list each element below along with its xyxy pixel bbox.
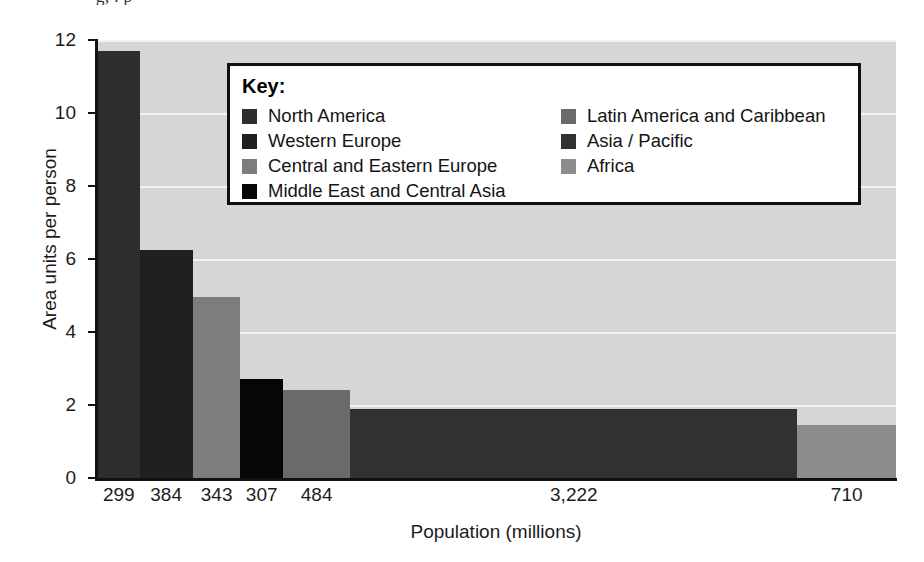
y-axis-tick-label: 4 xyxy=(14,322,76,341)
y-axis-label: Area units per person xyxy=(39,39,61,439)
y-axis-tick-mark xyxy=(88,39,97,41)
legend-item: Middle East and Central Asia xyxy=(242,179,561,204)
legend-swatch-icon xyxy=(242,184,257,199)
legend-swatch-icon xyxy=(242,134,257,149)
legend-columns: North AmericaWestern EuropeCentral and E… xyxy=(242,104,858,204)
legend-item-label: North America xyxy=(268,107,385,126)
legend-item-label: Latin America and Caribbean xyxy=(587,107,826,126)
x-axis-tick-label: 3,222 xyxy=(350,484,797,506)
legend-item: Central and Eastern Europe xyxy=(242,154,561,179)
x-axis-tick-label: 384 xyxy=(140,484,193,506)
legend-item: Western Europe xyxy=(242,129,561,154)
y-axis-tick-mark xyxy=(88,331,97,333)
x-axis-tick-label: 299 xyxy=(98,484,140,506)
bar xyxy=(283,390,350,478)
bar xyxy=(797,425,896,478)
y-axis-tick-label: 8 xyxy=(14,176,76,195)
y-axis-tick-label: 6 xyxy=(14,249,76,268)
x-axis-tick-label: 307 xyxy=(240,484,283,506)
y-axis-tick-mark xyxy=(88,258,97,260)
bar xyxy=(240,379,283,478)
legend-item: North America xyxy=(242,104,561,129)
legend-box: Key: North AmericaWestern EuropeCentral … xyxy=(227,63,861,205)
y-axis-tick-mark xyxy=(88,112,97,114)
x-axis-tick-label: 343 xyxy=(193,484,241,506)
y-axis-tick-label: 0 xyxy=(14,468,76,487)
chart-figure: g, . p Area units per person 024681012 2… xyxy=(0,0,924,562)
y-axis-tick-mark xyxy=(88,404,97,406)
legend-item: Asia / Pacific xyxy=(561,129,858,154)
legend-swatch-icon xyxy=(561,159,576,174)
legend-item-label: Middle East and Central Asia xyxy=(268,182,506,201)
x-axis-label: Population (millions) xyxy=(96,521,896,543)
legend-item-label: Central and Eastern Europe xyxy=(268,157,497,176)
gridline xyxy=(98,259,896,261)
legend-column-left: North AmericaWestern EuropeCentral and E… xyxy=(242,104,561,204)
clipped-title: g, . p xyxy=(96,0,796,5)
legend-item: Latin America and Caribbean xyxy=(561,104,858,129)
legend-column-right: Latin America and CaribbeanAsia / Pacifi… xyxy=(561,104,858,204)
legend-swatch-icon xyxy=(242,159,257,174)
y-axis-tick-mark xyxy=(88,185,97,187)
x-axis-line xyxy=(95,478,897,481)
bar xyxy=(98,51,140,478)
legend-item-label: Asia / Pacific xyxy=(587,132,693,151)
legend-item-label: Western Europe xyxy=(268,132,401,151)
legend-title: Key: xyxy=(242,75,858,97)
y-axis-tick-mark xyxy=(88,477,97,479)
legend-swatch-icon xyxy=(561,109,576,124)
legend-swatch-icon xyxy=(561,134,576,149)
y-axis-tick-label: 2 xyxy=(14,395,76,414)
bar xyxy=(140,250,193,478)
gridline xyxy=(98,40,896,42)
y-axis-tick-label: 10 xyxy=(14,103,76,122)
legend-swatch-icon xyxy=(242,109,257,124)
bar xyxy=(350,409,797,478)
x-axis-tick-label: 710 xyxy=(797,484,896,506)
x-axis-tick-label: 484 xyxy=(283,484,350,506)
legend-item-label: Africa xyxy=(587,157,634,176)
legend-item: Africa xyxy=(561,154,858,179)
bar xyxy=(193,297,241,478)
y-axis-tick-label: 12 xyxy=(14,30,76,49)
